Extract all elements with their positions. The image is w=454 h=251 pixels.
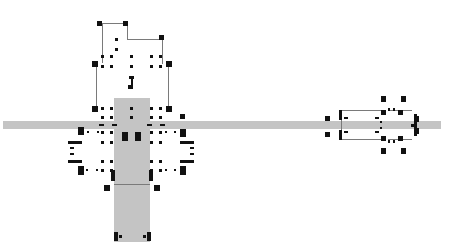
resize-handle[interactable] — [159, 160, 162, 163]
resize-handle[interactable] — [165, 169, 167, 171]
resize-handle[interactable] — [159, 169, 162, 172]
resize-handle[interactable] — [110, 160, 113, 163]
resize-handle[interactable] — [190, 153, 194, 155]
resize-handle[interactable] — [339, 110, 342, 120]
resize-handle[interactable] — [180, 129, 186, 137]
resize-handle[interactable] — [101, 131, 104, 134]
resize-handle[interactable] — [375, 117, 379, 119]
resize-handle[interactable] — [70, 147, 74, 149]
resize-handle[interactable] — [130, 116, 133, 119]
resize-handle[interactable] — [86, 169, 88, 171]
resize-handle[interactable] — [101, 65, 104, 68]
resize-handle[interactable] — [110, 55, 113, 58]
resize-handle[interactable] — [96, 169, 98, 171]
resize-handle[interactable] — [87, 131, 89, 133]
resize-handle[interactable] — [159, 55, 162, 58]
resize-handle[interactable] — [110, 116, 113, 119]
resize-handle[interactable] — [154, 185, 160, 191]
resize-handle[interactable] — [101, 107, 104, 110]
resize-handle[interactable] — [159, 116, 162, 119]
resize-handle[interactable] — [130, 55, 133, 58]
resize-handle[interactable] — [110, 65, 113, 68]
resize-handle[interactable] — [70, 153, 74, 155]
resize-handle[interactable] — [101, 116, 104, 119]
resize-handle[interactable] — [325, 116, 330, 121]
resize-handle[interactable] — [388, 108, 390, 111]
resize-handle[interactable] — [150, 55, 153, 58]
resize-handle[interactable] — [344, 131, 348, 133]
resize-handle[interactable] — [401, 96, 406, 102]
horizontal-bar[interactable] — [3, 121, 441, 129]
resize-handle[interactable] — [393, 108, 395, 111]
resize-handle[interactable] — [78, 127, 84, 135]
resize-handle[interactable] — [398, 136, 403, 141]
resize-handle[interactable] — [411, 124, 414, 127]
resize-handle[interactable] — [114, 232, 118, 241]
resize-handle[interactable] — [160, 124, 165, 126]
resize-handle[interactable] — [398, 110, 403, 115]
resize-handle[interactable] — [339, 130, 342, 140]
resize-handle[interactable] — [110, 131, 113, 134]
resize-handle[interactable] — [110, 141, 113, 144]
resize-handle[interactable] — [101, 160, 104, 163]
resize-handle[interactable] — [130, 65, 133, 68]
resize-handle[interactable] — [92, 106, 98, 112]
resize-handle[interactable] — [159, 131, 162, 134]
resize-handle[interactable] — [380, 121, 382, 123]
resize-handle[interactable] — [149, 170, 153, 181]
resize-handle[interactable] — [380, 127, 382, 129]
resize-handle[interactable] — [111, 170, 115, 181]
resize-handle[interactable] — [150, 65, 153, 68]
resize-handle[interactable] — [135, 132, 141, 141]
resize-handle[interactable] — [159, 35, 164, 40]
resize-handle[interactable] — [381, 96, 386, 102]
resize-handle[interactable] — [150, 116, 153, 119]
resize-handle[interactable] — [68, 141, 82, 144]
resize-handle[interactable] — [190, 147, 194, 149]
resize-handle[interactable] — [110, 107, 113, 110]
resize-handle[interactable] — [393, 140, 395, 143]
resize-handle[interactable] — [78, 166, 84, 175]
resize-handle[interactable] — [147, 232, 151, 241]
resize-handle[interactable] — [150, 160, 153, 163]
resize-handle[interactable] — [68, 160, 82, 163]
resize-handle[interactable] — [325, 132, 330, 137]
resize-handle[interactable] — [97, 131, 99, 133]
resize-handle[interactable] — [150, 107, 153, 110]
resize-handle[interactable] — [401, 148, 406, 154]
resize-handle[interactable] — [101, 169, 104, 172]
resize-handle[interactable] — [166, 106, 172, 112]
resize-handle[interactable] — [375, 131, 379, 133]
resize-handle[interactable] — [159, 107, 162, 110]
resize-handle[interactable] — [180, 141, 194, 144]
resize-handle[interactable] — [119, 235, 122, 238]
resize-handle[interactable] — [101, 141, 104, 144]
resize-handle[interactable] — [174, 169, 176, 171]
resize-handle[interactable] — [92, 61, 98, 67]
resize-handle[interactable] — [381, 148, 386, 154]
resize-handle[interactable] — [130, 107, 133, 110]
resize-handle[interactable] — [416, 128, 419, 134]
resize-handle[interactable] — [159, 141, 162, 144]
resize-handle[interactable] — [128, 85, 133, 89]
resize-handle[interactable] — [115, 38, 118, 41]
resize-handle[interactable] — [147, 124, 152, 126]
resize-handle[interactable] — [180, 166, 186, 175]
resize-handle[interactable] — [344, 117, 348, 119]
resize-handle[interactable] — [150, 141, 153, 144]
resize-handle[interactable] — [159, 65, 162, 68]
resize-handle[interactable] — [97, 21, 102, 26]
resize-handle[interactable] — [112, 124, 117, 126]
resize-handle[interactable] — [416, 116, 419, 122]
resize-handle[interactable] — [150, 131, 153, 134]
resize-handle[interactable] — [180, 114, 185, 119]
resize-handle[interactable] — [180, 160, 194, 163]
resize-handle[interactable] — [99, 124, 104, 126]
resize-handle[interactable] — [123, 21, 128, 26]
resize-handle[interactable] — [381, 110, 386, 115]
resize-handle[interactable] — [165, 131, 167, 133]
resize-handle[interactable] — [115, 48, 118, 51]
resize-handle[interactable] — [166, 61, 172, 67]
resize-handle[interactable] — [381, 136, 386, 141]
resize-handle[interactable] — [122, 132, 128, 141]
